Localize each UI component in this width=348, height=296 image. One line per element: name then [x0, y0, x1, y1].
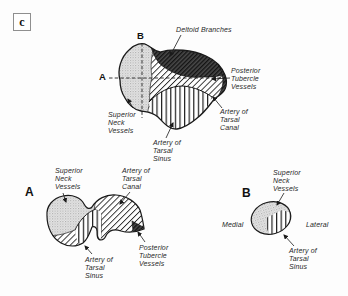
label-medial: Medial [222, 221, 244, 229]
label-artery-tarsal-sinus-b: Artery of Tarsal Sinus [289, 247, 317, 271]
label-artery-tarsal-sinus-top: Artery of Tarsal Sinus [153, 139, 181, 163]
label-superior-neck-vessels-b: Superior Neck Vessels [273, 169, 301, 193]
section-a-shape [40, 188, 145, 254]
label-lateral: Lateral [306, 221, 328, 229]
label-deltoid-branches: Deltoid Branches [176, 26, 232, 34]
label-posterior-tubercle-vessels-a: Posterior Tubercle Vessels [139, 244, 168, 268]
section-b-shape [248, 193, 295, 246]
label-posterior-tubercle-vessels-top: Posterior Tubercle Vessels [231, 67, 260, 91]
label-superior-neck-vessels-top: Superior Neck Vessels [108, 111, 136, 135]
leader-a-posterior-tubercle [138, 232, 145, 242]
leader-a-tarsal-sinus [85, 246, 92, 254]
figure-canvas: c B A Deltoid Branches Posterior Tubercl… [0, 0, 348, 296]
panel-label-box: c [13, 13, 31, 31]
section-b-line-marker: B [137, 31, 144, 41]
label-artery-tarsal-canal-a: Artery of Tarsal Canal [122, 167, 150, 191]
section-a-marker: A [25, 186, 34, 198]
section-b-marker: B [242, 187, 251, 199]
section-a-line-marker: A [99, 72, 106, 82]
panel-label: c [19, 15, 24, 30]
leader-tarsal-canal [213, 97, 222, 108]
label-artery-tarsal-canal-top: Artery of Tarsal Canal [220, 108, 248, 132]
leader-b-tarsal-sinus [284, 235, 294, 246]
label-artery-tarsal-sinus-a: Artery of Tarsal Sinus [85, 256, 113, 280]
label-superior-neck-vessels-a: Superior Neck Vessels [55, 167, 83, 191]
